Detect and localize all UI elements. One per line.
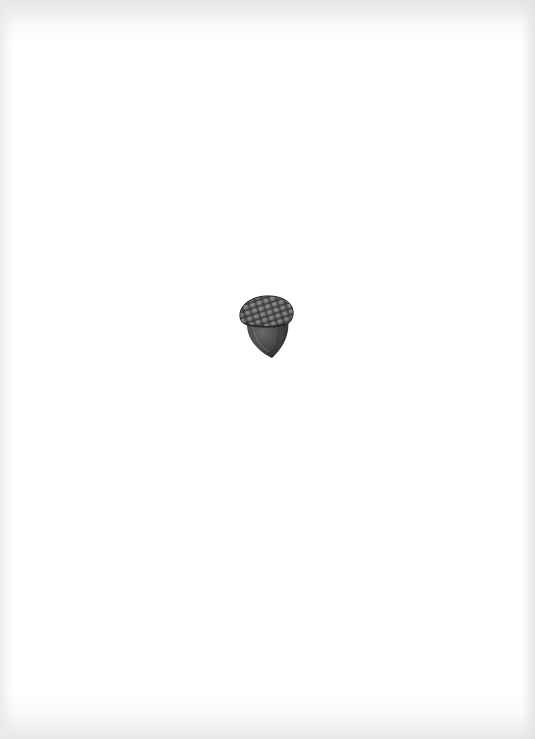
page-edge-shadow-left xyxy=(0,0,14,739)
page-edge-shadow-top xyxy=(0,0,535,45)
page-edge-shadow-right xyxy=(521,0,535,739)
acorn-icon xyxy=(238,294,296,360)
acorn-illustration xyxy=(238,294,296,360)
blank-page xyxy=(0,0,535,739)
page-edge-shadow-bottom xyxy=(0,694,535,739)
